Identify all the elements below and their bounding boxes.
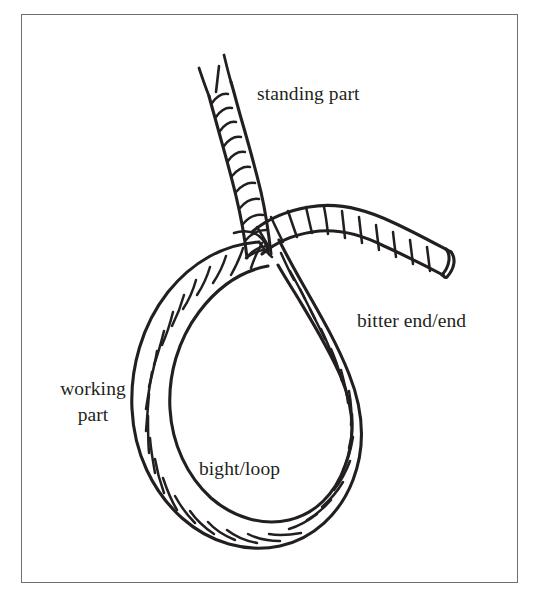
- label-working-part-line-1: working: [45, 376, 141, 402]
- rope-drawing: [132, 55, 454, 548]
- standing-part-frayed-tip: [199, 55, 231, 96]
- label-bight-loop: bight/loop: [199, 456, 280, 482]
- label-bitter-end: bitter end/end: [357, 308, 466, 334]
- bight-loop-strands: [146, 243, 353, 543]
- figure-page: standing part bitter end/end bight/loop …: [0, 0, 541, 614]
- label-standing-part: standing part: [257, 81, 360, 107]
- label-working-part-line-2: part: [45, 402, 141, 428]
- label-working-part: working part: [45, 376, 141, 427]
